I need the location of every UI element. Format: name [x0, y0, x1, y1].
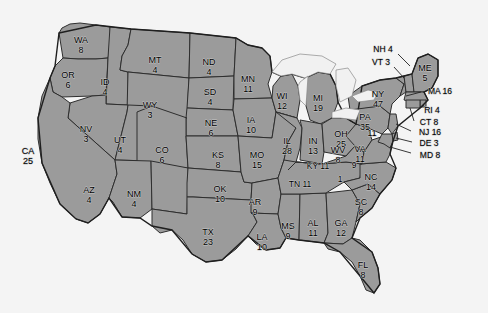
state-label-NC: NC14: [365, 172, 378, 192]
callout-label-CT: CT 8: [420, 117, 439, 127]
state-abbr-VA: VA: [354, 144, 365, 154]
state-abbr-FL: FL: [358, 260, 369, 270]
state-abbr-MI: MI: [313, 93, 323, 103]
state-abbr-SC: SC: [355, 197, 368, 207]
state-OR[interactable]: [50, 58, 108, 97]
callout-label-NJ: NJ 16: [419, 127, 441, 137]
state-abbr-WY: WY: [143, 100, 158, 110]
state-abbr-IA: IA: [247, 115, 256, 125]
state-abbr-IL: IL: [283, 136, 291, 146]
callout-label-TN: TN 11: [289, 179, 312, 189]
state-abbr-OH: OH: [334, 129, 348, 139]
state-abbr-TX: TX: [202, 227, 214, 237]
us-electoral-map-svg: WA8OR6ID4MT4ND4SD4WY3NE6MN11WI12MI19IA10…: [0, 0, 488, 313]
state-votes-FL: 8: [360, 270, 365, 280]
callout-label-VT: VT 3: [372, 57, 390, 67]
state-votes-WI: 12: [277, 101, 287, 111]
state-votes-VA: 11: [355, 154, 364, 164]
state-abbr-WA: WA: [74, 35, 88, 45]
state-abbr-GA: GA: [334, 218, 347, 228]
state-abbr-MS: MS: [281, 221, 295, 231]
state-abbr-IN: IN: [309, 136, 318, 146]
state-votes-IN: 13: [308, 146, 318, 156]
state-ND[interactable]: [189, 33, 236, 78]
state-label-LA: LA10: [256, 232, 267, 252]
state-abbr-WI: WI: [277, 91, 288, 101]
state-label-CA: CA25: [22, 146, 35, 166]
state-votes-CA: 25: [23, 156, 33, 166]
state-label-IN: IN13: [308, 136, 318, 156]
small-marker-2: 9: [352, 160, 357, 170]
state-votes-MO: 15: [252, 160, 262, 170]
callout-label-KY: KY 11: [307, 161, 330, 171]
small-marker-1: 1: [338, 174, 343, 184]
state-abbr-WV: WV: [331, 145, 346, 155]
state-abbr-OR: OR: [61, 70, 75, 80]
state-abbr-CO: CO: [155, 145, 169, 155]
state-abbr-NY: NY: [372, 89, 385, 99]
state-votes-KS: 8: [215, 160, 220, 170]
state-votes-MS: 9: [285, 231, 290, 241]
state-votes-SD: 4: [207, 97, 212, 107]
state-label-WI: WI12: [277, 91, 288, 111]
state-votes-IL: 28: [282, 146, 292, 156]
state-NM[interactable]: [151, 161, 188, 214]
state-votes-MT: 4: [152, 65, 157, 75]
callout-label-DE: DE 3: [420, 138, 439, 148]
state-votes-AZ: 4: [86, 195, 91, 205]
state-label-NY: NY47: [372, 89, 385, 109]
state-votes-GA: 12: [336, 228, 346, 238]
state-label-OK: OK10: [213, 184, 226, 204]
state-abbr-ND: ND: [203, 57, 216, 67]
state-votes-MN: 11: [243, 84, 252, 94]
state-abbr-LA: LA: [256, 232, 267, 242]
state-abbr-AZ: AZ: [83, 185, 95, 195]
state-label-TX: TX23: [202, 227, 214, 247]
state-votes-LA: 10: [257, 242, 267, 252]
state-votes-ID: 4: [102, 87, 107, 97]
state-abbr-ID: ID: [101, 77, 111, 87]
state-votes-OR: 6: [65, 80, 70, 90]
state-label-IA: IA10: [246, 115, 256, 135]
state-label-GA: GA12: [334, 218, 347, 238]
state-votes-WA: 8: [78, 45, 83, 55]
state-votes-WY: 3: [147, 110, 152, 120]
state-votes-TX: 23: [203, 237, 213, 247]
state-abbr-OK: OK: [213, 184, 226, 194]
state-votes-AL: 11: [308, 228, 317, 238]
state-abbr-MO: MO: [250, 150, 265, 160]
state-abbr-ME: ME: [418, 63, 432, 73]
state-abbr-AR: AR: [249, 197, 262, 207]
state-votes-NE: 6: [208, 128, 213, 138]
state-votes-SC: 8: [358, 207, 363, 217]
state-label-AL: AL11: [307, 218, 318, 238]
state-votes-MI: 19: [313, 103, 323, 113]
state-votes-ME: 5: [422, 73, 427, 83]
state-abbr-AL: AL: [307, 218, 318, 228]
state-votes-OK: 10: [215, 194, 225, 204]
state-votes-AR: 9: [252, 207, 257, 217]
electoral-map-container: WA8OR6ID4MT4ND4SD4WY3NE6MN11WI12MI19IA10…: [0, 0, 488, 313]
state-votes-NM: 4: [131, 199, 136, 209]
state-votes-NV: 3: [83, 134, 88, 144]
state-abbr-SD: SD: [204, 87, 217, 97]
state-abbr-PA: PA: [359, 112, 370, 122]
state-label-MI: MI19: [313, 93, 323, 113]
state-votes-NY: 47: [373, 99, 383, 109]
state-abbr-NE: NE: [205, 118, 218, 128]
state-votes-UT: 4: [117, 145, 122, 155]
state-abbr-KS: KS: [212, 150, 224, 160]
callout-label-RI: RI 4: [424, 105, 440, 115]
callout-label-MA: MA 16: [428, 86, 452, 96]
state-abbr-NC: NC: [365, 172, 378, 182]
callout-label-NH: NH 4: [373, 44, 393, 54]
state-label-IL: IL28: [282, 136, 292, 156]
state-CT[interactable]: [406, 100, 420, 108]
state-votes-CO: 6: [159, 155, 164, 165]
callout-label-MD: MD 8: [420, 150, 441, 160]
state-abbr-MT: MT: [149, 55, 162, 65]
state-abbr-MN: MN: [241, 74, 255, 84]
state-abbr-UT: UT: [114, 135, 126, 145]
state-abbr-NV: NV: [80, 124, 93, 134]
small-marker-0: 11: [368, 128, 377, 138]
